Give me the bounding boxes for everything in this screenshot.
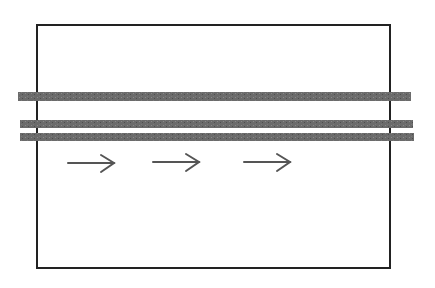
outer-frame bbox=[37, 25, 390, 268]
diagram-canvas bbox=[0, 0, 435, 288]
band-3 bbox=[20, 133, 414, 141]
arrow-group bbox=[68, 154, 290, 172]
band-1 bbox=[18, 92, 411, 101]
right-arrow-icon bbox=[244, 154, 290, 171]
band-2 bbox=[20, 120, 413, 128]
right-arrow-icon bbox=[68, 155, 114, 172]
band-group bbox=[18, 92, 414, 141]
right-arrow-icon bbox=[153, 154, 199, 171]
